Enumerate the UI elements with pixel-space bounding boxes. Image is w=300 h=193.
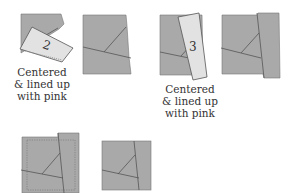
step-2-label: Centered & lined up with pink <box>2 66 82 102</box>
trim-diagram <box>21 133 79 193</box>
step-3-placement-diagram <box>160 13 207 80</box>
step-2-sewn-diagram <box>83 15 131 74</box>
finished-block-diagram <box>102 141 151 190</box>
step-3-label: Centered & lined up with pink <box>150 83 230 119</box>
piece-number-3: 3 <box>189 40 197 54</box>
step-3-sewn-diagram <box>221 13 280 78</box>
